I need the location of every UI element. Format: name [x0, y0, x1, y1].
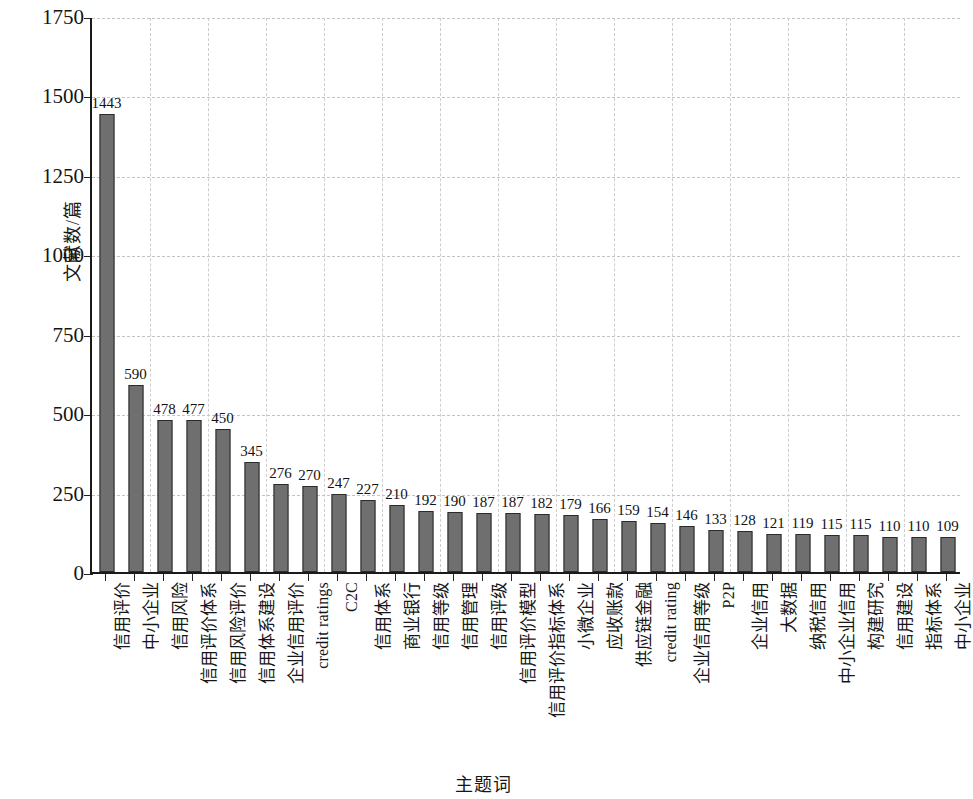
bar-slot: 110	[875, 18, 904, 572]
x-tick-mark	[946, 574, 947, 581]
x-tick-mark	[192, 574, 193, 581]
bar-value-label: 276	[269, 466, 292, 481]
bar	[505, 513, 520, 572]
bar-value-label: 121	[762, 516, 785, 531]
bar-slot: 128	[730, 18, 759, 572]
x-tick-mark	[569, 574, 570, 581]
x-axis-title: 主题词	[0, 770, 966, 796]
bar-value-label: 109	[936, 519, 959, 534]
x-tick-mark	[772, 574, 773, 581]
bar-slot: 1443	[92, 18, 121, 572]
x-tick-mark	[743, 574, 744, 581]
x-category-label: 供应链金融	[636, 582, 653, 667]
bar	[853, 535, 868, 572]
y-tick-label: 1250	[0, 166, 84, 187]
y-tick-label: 250	[0, 484, 84, 505]
x-tick-mark	[714, 574, 715, 581]
x-category-label: 构建研究	[868, 582, 885, 650]
x-tick-mark	[482, 574, 483, 581]
bar-slot: 270	[295, 18, 324, 572]
bar	[215, 429, 230, 572]
x-tick-mark	[424, 574, 425, 581]
bar	[592, 519, 607, 572]
bar-value-label: 590	[124, 367, 147, 382]
x-tick-mark	[221, 574, 222, 581]
x-category-label: 中小企业信用	[839, 582, 856, 684]
bar-value-label: 166	[588, 501, 611, 516]
x-category-label: 信用风险评价	[230, 582, 247, 684]
x-tick-mark	[279, 574, 280, 581]
x-tick-mark	[511, 574, 512, 581]
bar-value-label: 270	[298, 468, 321, 483]
plot-area: 1443590478477450345276270247227210192190…	[90, 18, 960, 574]
bar	[824, 535, 839, 572]
bar-slot: 590	[121, 18, 150, 572]
bar-value-label: 192	[414, 493, 437, 508]
bar-value-label: 247	[327, 476, 350, 491]
bar-value-label: 119	[792, 516, 814, 531]
y-axis-ticks: 02505007501000125015001750	[0, 0, 84, 799]
bar	[882, 537, 897, 572]
bar	[447, 512, 462, 572]
x-category-label: 信用评价	[114, 582, 131, 650]
bar-value-label: 146	[675, 508, 698, 523]
x-category-label: 企业信用评价	[288, 582, 305, 684]
x-category-label: 信用评价指标体系	[549, 582, 566, 718]
bar-slot: 345	[237, 18, 266, 572]
x-category-label: credit ratings	[314, 582, 331, 669]
bar	[244, 462, 259, 572]
x-tick-mark	[250, 574, 251, 581]
x-category-label: 商业银行	[404, 582, 421, 650]
x-category-label: C2C	[343, 582, 360, 612]
x-category-label: 小微企业	[578, 582, 595, 650]
x-tick-mark	[627, 574, 628, 581]
bar-slot: 187	[469, 18, 498, 572]
bar-value-label: 110	[908, 519, 930, 534]
x-category-label: credit rating	[662, 582, 679, 662]
bar	[476, 513, 491, 572]
x-category-label: 信用评级	[491, 582, 508, 650]
bar-slot: 121	[759, 18, 788, 572]
x-tick-mark	[308, 574, 309, 581]
bar	[534, 514, 549, 572]
bar-slot: 179	[556, 18, 585, 572]
bar-slot: 192	[411, 18, 440, 572]
bar	[157, 420, 172, 572]
bar	[708, 530, 723, 572]
x-tick-mark	[801, 574, 802, 581]
bar	[650, 523, 665, 572]
x-tick-mark	[395, 574, 396, 581]
x-tick-mark	[888, 574, 889, 581]
x-category-label: 纳税信用	[810, 582, 827, 650]
bar-value-label: 450	[211, 411, 234, 426]
x-tick-mark	[598, 574, 599, 581]
x-category-label: 大数据	[781, 582, 798, 633]
bar	[360, 500, 375, 572]
x-tick-mark	[685, 574, 686, 581]
x-tick-mark	[337, 574, 338, 581]
bar-slot: 227	[353, 18, 382, 572]
bar-slot: 115	[846, 18, 875, 572]
bar	[302, 486, 317, 572]
bar	[911, 537, 926, 572]
bar-value-label: 133	[704, 512, 727, 527]
y-tick-label: 1000	[0, 245, 84, 266]
bar	[99, 114, 114, 572]
bar-series: 1443590478477450345276270247227210192190…	[92, 18, 960, 572]
x-category-label: P2P	[720, 582, 737, 608]
bar	[331, 494, 346, 572]
bar-value-label: 187	[472, 495, 495, 510]
bar-slot: 119	[788, 18, 817, 572]
bar	[418, 511, 433, 572]
bar-slot: 109	[933, 18, 962, 572]
bar-value-label: 128	[733, 513, 756, 528]
bar	[621, 521, 636, 572]
x-tick-mark	[134, 574, 135, 581]
bar	[128, 385, 143, 572]
bar	[940, 537, 955, 572]
y-tick-label: 750	[0, 325, 84, 346]
bar-slot: 154	[643, 18, 672, 572]
x-tick-mark	[453, 574, 454, 581]
bar	[679, 526, 694, 572]
x-category-label: 信用体系建设	[259, 582, 276, 684]
